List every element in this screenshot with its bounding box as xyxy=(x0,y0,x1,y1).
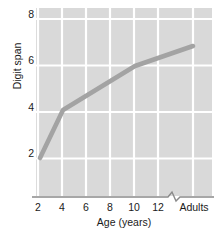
x-tick-label-4: 4 xyxy=(54,201,70,213)
x-axis-label: Age (years) xyxy=(36,216,212,228)
x-tick-label-6: 6 xyxy=(78,201,94,213)
x-tick-label-2: 2 xyxy=(30,201,46,213)
x-tick-label-10: 10 xyxy=(124,201,144,213)
x-tick-label-12: 12 xyxy=(148,201,168,213)
x-tick-label-adults: Adults xyxy=(172,201,216,213)
digit-span-line-chart: Digit span 8 6 4 2 2 4 6 xyxy=(0,0,218,238)
x-tick-label-8: 8 xyxy=(102,201,118,213)
